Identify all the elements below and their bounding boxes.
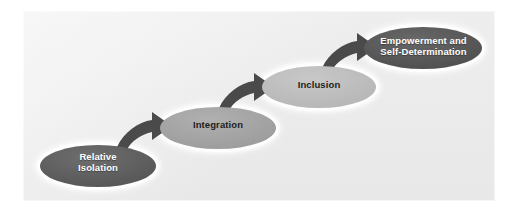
diagram-figure: Relative Isolation Integration Inclusion…: [0, 0, 510, 214]
diagram-panel: [23, 11, 495, 201]
